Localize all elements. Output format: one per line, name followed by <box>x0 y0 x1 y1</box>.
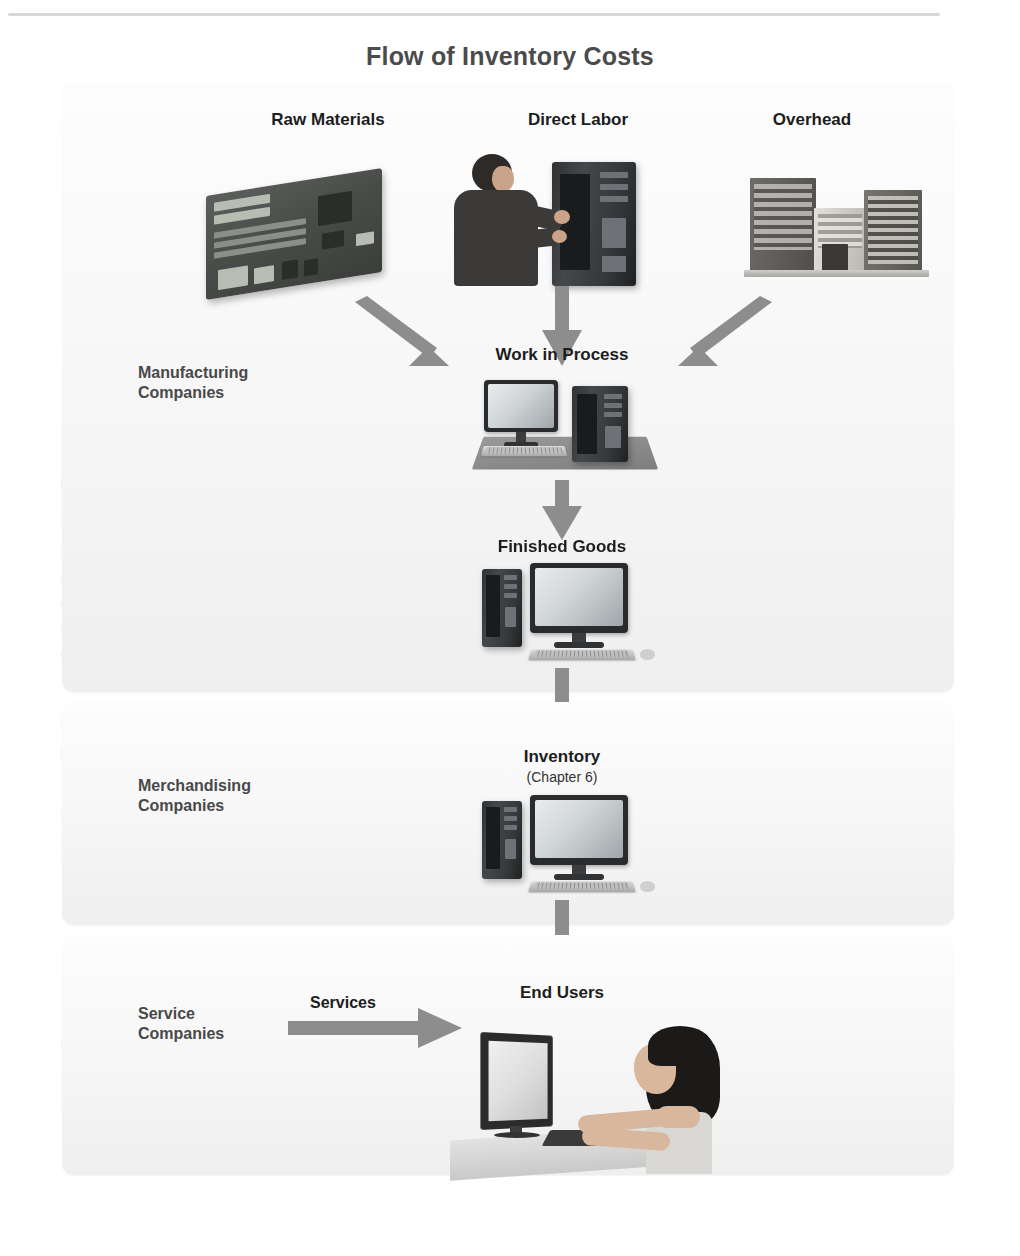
inventory-computer-image <box>482 795 672 900</box>
side-label-line2: Companies <box>138 1024 338 1044</box>
side-label-line2: Companies <box>138 383 338 403</box>
top-divider-rule <box>8 13 940 16</box>
column-header-raw-materials: Raw Materials <box>228 110 428 130</box>
side-label-merchandising-companies: Merchandising Companies <box>138 776 338 816</box>
stage-label-inventory: Inventory <box>432 747 692 767</box>
worker-assembling-computer-image <box>448 148 663 288</box>
stage-label-finished-goods: Finished Goods <box>432 537 692 557</box>
finished-computer-image <box>482 563 672 668</box>
stage-label-work-in-process: Work in Process <box>432 345 692 365</box>
factory-building-image <box>744 170 929 290</box>
side-label-line2: Companies <box>138 796 338 816</box>
side-label-line1: Service <box>138 1004 338 1024</box>
side-label-service-companies: Service Companies <box>138 1004 338 1044</box>
stage-label-inventory-chapter-note: (Chapter 6) <box>432 769 692 785</box>
column-header-direct-labor: Direct Labor <box>478 110 678 130</box>
computer-on-workbench-image <box>472 378 662 478</box>
column-header-overhead: Overhead <box>712 110 912 130</box>
figure-page: in a manufacturing company, inventory co… <box>0 0 1020 1256</box>
figure-title: Flow of Inventory Costs <box>0 42 1020 71</box>
arrow-wip-to-finished-goods <box>540 480 584 542</box>
stage-label-end-users: End Users <box>432 983 692 1003</box>
side-label-line1: Merchandising <box>138 776 338 796</box>
person-using-computer-image <box>450 1020 770 1175</box>
circuit-board-image <box>196 172 396 297</box>
side-label-manufacturing-companies: Manufacturing Companies <box>138 363 338 403</box>
side-label-line1: Manufacturing <box>138 363 338 383</box>
